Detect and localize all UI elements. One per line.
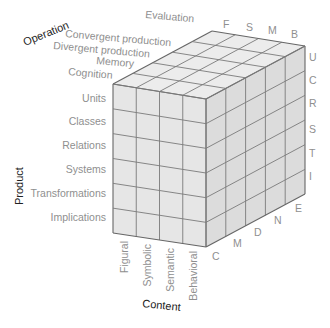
product-label-transformations: Transformations [31, 187, 106, 199]
product-label-relations: Relations [62, 139, 106, 151]
product-abbrev-c: C [309, 74, 317, 86]
product-label-units: Units [82, 92, 106, 104]
product-abbrev-u: U [309, 51, 317, 63]
product-abbrev-r: R [309, 97, 317, 109]
product-label-implications: Implications [51, 211, 106, 223]
operation-abbrev-n: N [274, 214, 282, 226]
operation-label-evaluation: Evaluation [145, 8, 195, 24]
product-label-systems: Systems [66, 163, 106, 175]
content-axis-title: Content [142, 297, 182, 313]
structure-of-intellect-cube-diagram: Operation Product Content Evaluation Con… [0, 0, 330, 328]
product-abbrev-s: S [309, 123, 316, 135]
operation-abbrev-d: D [254, 226, 262, 238]
content-abbrev-s: S [246, 21, 253, 33]
operation-abbrev-m: M [233, 237, 242, 249]
product-abbrev-t: T [309, 147, 316, 159]
operation-label-cognition: Cognition [68, 65, 113, 81]
product-axis-title: Product [13, 167, 25, 205]
content-label-figural: Figural [118, 241, 130, 273]
content-label-symbolic: Symbolic [141, 244, 153, 287]
product-abbrev-i: I [309, 170, 312, 182]
content-abbrev-m: M [268, 24, 277, 36]
content-label-behavioral: Behavioral [187, 251, 199, 301]
operation-abbrev-c: C [212, 250, 220, 262]
content-abbrev-f: F [223, 18, 229, 30]
content-label-semantic: Semantic [164, 248, 176, 292]
operation-abbrev-e: E [295, 202, 302, 214]
product-label-classes: Classes [69, 115, 106, 127]
content-abbrev-b: B [291, 28, 298, 40]
